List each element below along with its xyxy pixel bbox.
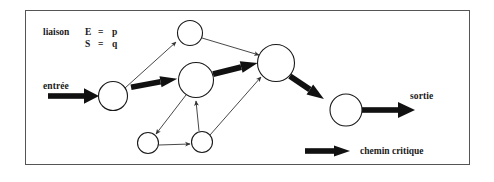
liaison-row-1-value: q bbox=[112, 39, 118, 49]
figure-frame bbox=[26, 11, 470, 165]
liaison-row-0-value: p bbox=[112, 27, 117, 37]
input-label: entrée bbox=[43, 81, 69, 91]
output-label: sortie bbox=[410, 91, 433, 101]
node-n3[interactable] bbox=[179, 63, 214, 98]
critical-path-legend-label: chemin critique bbox=[360, 146, 424, 156]
node-n6[interactable] bbox=[138, 133, 159, 154]
node-n1[interactable] bbox=[99, 82, 128, 111]
node-n5[interactable] bbox=[330, 94, 362, 126]
diagram-canvas: liaison E = p S = q entrée sortie chemin… bbox=[0, 0, 494, 182]
liaison-row-1-symbol: S bbox=[85, 39, 90, 49]
liaison-title: liaison bbox=[43, 27, 70, 37]
network-diagram-figure: liaison E = p S = q entrée sortie chemin… bbox=[0, 0, 494, 182]
node-n2[interactable] bbox=[178, 21, 203, 46]
liaison-row-0-equals: = bbox=[98, 27, 103, 37]
node-n7[interactable] bbox=[192, 132, 213, 153]
liaison-row-1-equals: = bbox=[98, 39, 103, 49]
node-n4[interactable] bbox=[258, 45, 295, 82]
liaison-row-0-symbol: E bbox=[85, 27, 91, 37]
